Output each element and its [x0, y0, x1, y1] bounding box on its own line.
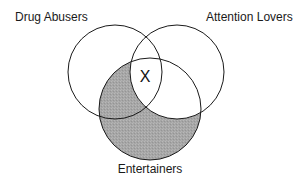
label-entertainers: Entertainers [118, 162, 183, 176]
label-drug-abusers: Drug Abusers [15, 10, 88, 24]
venn-diagram: Drug Abusers Attention Lovers Entertaine… [0, 0, 302, 179]
marker-x: X [140, 68, 151, 85]
label-attention-lovers: Attention Lovers [206, 10, 293, 24]
shaded-region [0, 0, 302, 179]
